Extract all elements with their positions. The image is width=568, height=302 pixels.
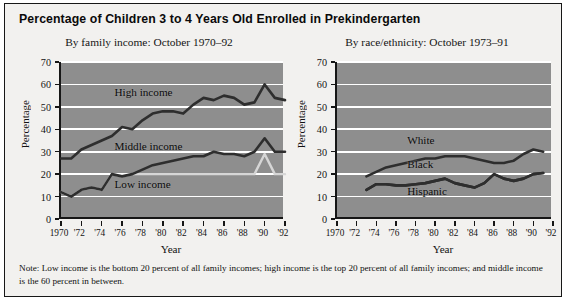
series-label-low-income: Low income (114, 178, 170, 190)
x-tick-label: '72 (74, 228, 85, 238)
series-label-middle-income: Middle income (114, 140, 182, 152)
x-tick-label: '72 (349, 228, 360, 238)
x-axis-label: Year (335, 243, 551, 255)
y-tick-mark (331, 151, 335, 152)
x-tick-mark (376, 221, 377, 226)
x-tick-label: '88 (237, 228, 248, 238)
x-tick-mark (336, 221, 337, 226)
y-tick-label: 30 (27, 146, 51, 157)
x-tick-label: '84 (467, 228, 478, 238)
y-tick-mark (55, 218, 59, 219)
y-tick-label: 30 (303, 146, 327, 157)
y-tick-mark (331, 106, 335, 107)
x-tick-label: '86 (216, 228, 227, 238)
x-tick-mark (533, 221, 534, 226)
y-tick-mark (55, 106, 59, 107)
y-tick-mark (55, 129, 59, 130)
x-tick-mark (284, 221, 285, 226)
x-tick-mark (415, 221, 416, 226)
y-tick-label: 60 (303, 79, 327, 90)
x-tick-mark (244, 221, 245, 226)
chart-panel-family-income: Percentage 0102030405060701970'72'74'76'… (13, 54, 285, 254)
y-tick-label: 50 (27, 101, 51, 112)
x-tick-mark (81, 221, 82, 226)
y-tick-mark (55, 196, 59, 197)
x-tick-label: 1970 (326, 228, 345, 238)
chart-panel-race-ethnicity: Percentage 0102030405060701970'72'74'76'… (291, 54, 559, 254)
x-tick-mark (513, 221, 514, 226)
x-tick-mark (121, 221, 122, 226)
figure-container: Percentage of Children 3 to 4 Years Old … (4, 3, 562, 297)
x-tick-label: '90 (526, 228, 537, 238)
x-tick-label: '86 (487, 228, 498, 238)
x-tick-mark (434, 221, 435, 226)
y-tick-mark (55, 151, 59, 152)
x-tick-mark (356, 221, 357, 226)
x-tick-mark (60, 221, 61, 226)
x-tick-label: '82 (176, 228, 187, 238)
x-tick-label: 1970 (50, 228, 69, 238)
series-line-hispanic (366, 173, 543, 190)
y-tick-label: 20 (27, 169, 51, 180)
x-tick-mark (162, 221, 163, 226)
x-tick-label: '74 (369, 228, 380, 238)
x-tick-label: '80 (428, 228, 439, 238)
figure-note: Note: Low income is the bottom 20 percen… (19, 262, 549, 287)
y-tick-mark (331, 84, 335, 85)
x-tick-label: '78 (135, 228, 146, 238)
x-tick-mark (142, 221, 143, 226)
y-tick-label: 0 (27, 214, 51, 225)
series-line-white (366, 149, 543, 176)
y-tick-mark (55, 61, 59, 62)
y-tick-mark (331, 173, 335, 174)
x-tick-label: '80 (155, 228, 166, 238)
y-tick-label: 10 (27, 191, 51, 202)
y-tick-mark (331, 61, 335, 62)
y-tick-mark (55, 173, 59, 174)
series-label-hispanic: Hispanic (407, 185, 447, 197)
y-tick-label: 60 (27, 79, 51, 90)
y-tick-label: 70 (27, 57, 51, 68)
y-tick-mark (55, 84, 59, 85)
y-tick-label: 10 (303, 191, 327, 202)
x-tick-mark (182, 221, 183, 226)
y-tick-mark (331, 129, 335, 130)
y-tick-label: 20 (303, 169, 327, 180)
x-tick-label: '76 (115, 228, 126, 238)
x-tick-label: '78 (408, 228, 419, 238)
x-tick-label: '74 (94, 228, 105, 238)
x-tick-mark (223, 221, 224, 226)
y-tick-mark (331, 196, 335, 197)
x-tick-label: '90 (257, 228, 268, 238)
x-tick-mark (474, 221, 475, 226)
y-tick-label: 0 (303, 214, 327, 225)
x-tick-label: '84 (196, 228, 207, 238)
x-tick-label: '92 (278, 228, 289, 238)
x-tick-label: '82 (447, 228, 458, 238)
y-tick-label: 50 (303, 101, 327, 112)
x-tick-label: '76 (388, 228, 399, 238)
x-tick-mark (454, 221, 455, 226)
x-axis-label: Year (59, 243, 283, 255)
y-tick-label: 40 (27, 124, 51, 135)
x-tick-mark (101, 221, 102, 226)
y-tick-mark (331, 218, 335, 219)
x-tick-mark (264, 221, 265, 226)
x-tick-mark (203, 221, 204, 226)
chart-subtitle-race-ethnicity: By race/ethnicity: October 1973–91 (293, 36, 561, 48)
x-tick-label: '92 (546, 228, 557, 238)
series-label-white: White (407, 134, 434, 146)
x-tick-mark (552, 221, 553, 226)
y-tick-label: 70 (303, 57, 327, 68)
x-tick-mark (493, 221, 494, 226)
page-title: Percentage of Children 3 to 4 Years Old … (19, 12, 420, 26)
y-tick-label: 40 (303, 124, 327, 135)
x-tick-mark (395, 221, 396, 226)
series-label-black: Black (407, 158, 433, 170)
series-label-high-income: High income (114, 86, 172, 98)
x-tick-label: '88 (506, 228, 517, 238)
chart-subtitle-family-income: By family income: October 1970–92 (15, 36, 283, 48)
